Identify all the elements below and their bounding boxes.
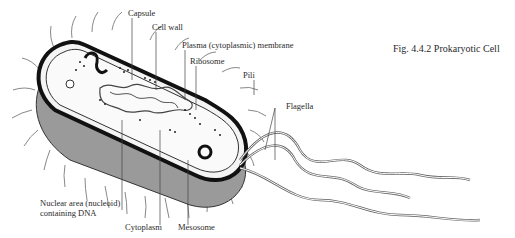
label-cytoplasm: Cytoplasm	[125, 222, 162, 232]
label-mesosome: Mesosome	[178, 222, 215, 232]
label-plasma-membrane: Plasma (cytoplasmic) membrane	[182, 40, 293, 50]
label-nucleoid-line2: containing DNA	[40, 208, 96, 218]
label-capsule: Capsule	[128, 8, 155, 18]
label-flagella: Flagella	[286, 101, 313, 111]
figure-caption: Fig. 4.4.2 Prokaryotic Cell	[393, 43, 500, 54]
label-ribosome: Ribosome	[190, 56, 224, 66]
label-cell-wall: Cell wall	[152, 22, 183, 32]
label-pili: Pili	[243, 70, 255, 80]
label-nucleoid-line1: Nuclear area (nucleoid)	[40, 198, 120, 208]
